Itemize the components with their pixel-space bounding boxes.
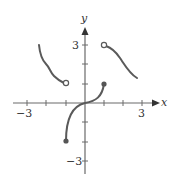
curve-left-piece [39,45,64,83]
y-tick-label-neg3: −3 [66,155,82,168]
curve-right-piece [106,46,137,78]
y-axis-arrow-icon [82,27,89,35]
open-endpoint-marker [63,80,68,85]
x-axis-label: x [161,96,168,109]
closed-endpoint-marker [63,138,68,143]
open-endpoint-marker [101,42,106,47]
piecewise-function-graph: x y −3 3 3 −3 [0,0,171,187]
x-tick-label-neg3: −3 [16,107,32,120]
closed-endpoint-marker [101,81,106,86]
graph-canvas: x y −3 3 3 −3 [0,0,171,187]
x-axis-arrow-icon [152,100,160,107]
y-tick-label-3: 3 [72,39,79,52]
x-tick-label-3: 3 [138,107,145,120]
y-axis-label: y [80,12,88,25]
